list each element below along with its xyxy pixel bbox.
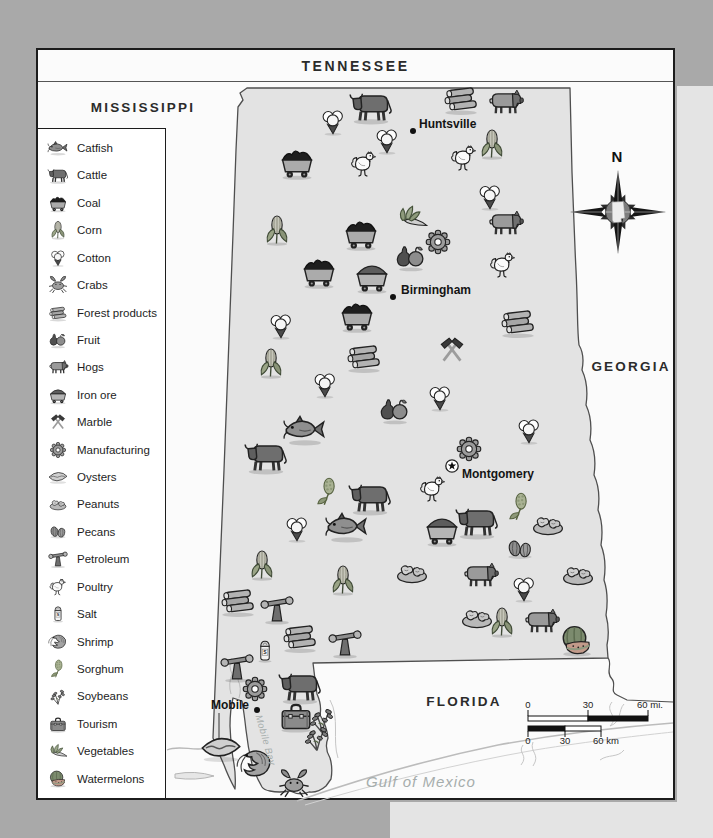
forest-icon <box>47 302 69 324</box>
manufacturing-icon <box>243 677 267 701</box>
crabs-icon <box>47 274 69 296</box>
legend-label: Peanuts <box>77 498 119 510</box>
corn-icon <box>47 219 69 241</box>
legend-label: Pecans <box>77 526 115 538</box>
legend-item-tourism: Tourism <box>47 713 161 735</box>
shrimp-icon <box>47 631 69 653</box>
alabama-state-shape <box>213 88 608 794</box>
manufacturing-icon <box>426 230 450 254</box>
legend-item-cattle: Cattle <box>47 164 161 186</box>
poultry-icon <box>47 576 69 598</box>
scanned-map-page: TENNESSEE <box>0 0 713 838</box>
city-dot <box>410 128 416 134</box>
catfish-icon <box>47 137 69 159</box>
hogs-icon <box>47 356 69 378</box>
legend-item-iron-ore: Iron ore <box>47 384 161 406</box>
legend-item-peanuts: Peanuts <box>47 493 161 515</box>
legend-item-watermelons: Watermelons <box>47 768 161 790</box>
iron-ore-icon <box>47 384 69 406</box>
salt-icon <box>47 603 69 625</box>
oysters-icon <box>47 466 69 488</box>
legend-item-petroleum: Petroleum <box>47 548 161 570</box>
watermelons-icon <box>47 768 69 790</box>
marble-icon <box>47 411 69 433</box>
legend-label: Forest products <box>77 307 157 319</box>
legend-label: Watermelons <box>77 773 144 785</box>
legend-label: Crabs <box>77 279 108 291</box>
peanuts-icon <box>47 493 69 515</box>
petroleum-icon <box>47 548 69 570</box>
florida-georgia-border <box>608 658 673 702</box>
legend-label: Coal <box>77 197 101 209</box>
legend-item-hogs: Hogs <box>47 356 161 378</box>
legend-label: Vegetables <box>77 745 134 757</box>
legend-item-manufacturing: Manufacturing <box>47 439 161 461</box>
scale-bar-miles <box>528 710 648 721</box>
compass-rose-icon <box>570 170 666 254</box>
legend-item-vegetables: Vegetables <box>47 740 161 762</box>
legend: CatfishCattleCoalCornCottonCrabsForest p… <box>37 128 166 799</box>
vegetables-icon <box>47 740 69 762</box>
legend-item-cotton: Cotton <box>47 247 161 269</box>
legend-label: Salt <box>77 608 97 620</box>
legend-item-poultry: Poultry <box>47 576 161 598</box>
soybeans-icon <box>47 685 69 707</box>
legend-label: Cotton <box>77 252 111 264</box>
legend-label: Iron ore <box>77 389 117 401</box>
legend-label: Tourism <box>77 718 117 730</box>
legend-label: Poultry <box>77 581 113 593</box>
legend-item-fruit: Fruit <box>47 329 161 351</box>
scale-bar-km <box>528 726 601 737</box>
legend-label: Corn <box>77 224 102 236</box>
legend-item-oysters: Oysters <box>47 466 161 488</box>
legend-item-shrimp: Shrimp <box>47 631 161 653</box>
legend-label: Sorghum <box>77 663 124 675</box>
legend-item-forest: Forest products <box>47 302 161 324</box>
legend-items: CatfishCattleCoalCornCottonCrabsForest p… <box>38 129 165 798</box>
legend-label: Hogs <box>77 361 104 373</box>
cattle-icon <box>47 164 69 186</box>
legend-label: Oysters <box>77 471 117 483</box>
coal-icon <box>47 192 69 214</box>
oysters-icon <box>202 739 239 762</box>
fruit-icon <box>47 329 69 351</box>
iron-ore-icon <box>358 266 387 294</box>
sorghum-icon <box>47 658 69 680</box>
legend-item-coal: Coal <box>47 192 161 214</box>
tourism-icon <box>47 713 69 735</box>
pecans-icon <box>47 521 69 543</box>
legend-item-soybeans: Soybeans <box>47 685 161 707</box>
legend-label: Fruit <box>77 334 100 346</box>
legend-item-salt: Salt <box>47 603 161 625</box>
legend-label: Cattle <box>77 169 107 181</box>
city-dot <box>254 707 260 713</box>
scale-bar <box>528 710 648 737</box>
city-dot <box>390 294 396 300</box>
legend-label: Catfish <box>77 142 113 154</box>
legend-item-pecans: Pecans <box>47 521 161 543</box>
legend-label: Marble <box>77 416 112 428</box>
legend-item-catfish: Catfish <box>47 137 161 159</box>
manufacturing-icon <box>457 437 481 461</box>
legend-item-corn: Corn <box>47 219 161 241</box>
legend-label: Shrimp <box>77 636 113 648</box>
cotton-icon <box>47 247 69 269</box>
legend-label: Soybeans <box>77 690 128 702</box>
legend-item-sorghum: Sorghum <box>47 658 161 680</box>
legend-label: Manufacturing <box>77 444 150 456</box>
manufacturing-icon <box>47 439 69 461</box>
legend-item-crabs: Crabs <box>47 274 161 296</box>
legend-label: Petroleum <box>77 553 129 565</box>
iron-ore-icon <box>428 519 457 547</box>
legend-item-marble: Marble <box>47 411 161 433</box>
